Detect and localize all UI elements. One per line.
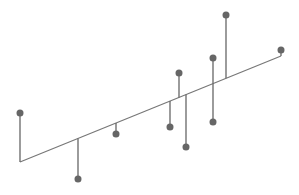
data-points xyxy=(17,12,285,183)
data-point xyxy=(223,12,230,19)
data-point xyxy=(183,144,190,151)
data-point xyxy=(176,70,183,77)
data-point xyxy=(210,55,217,62)
data-point xyxy=(278,47,285,54)
residual-stems xyxy=(20,15,281,179)
data-point xyxy=(17,110,24,117)
data-point xyxy=(75,176,82,183)
data-point xyxy=(113,131,120,138)
regression-line xyxy=(20,56,281,162)
residual-scatter-chart xyxy=(0,0,299,195)
data-point xyxy=(167,124,174,131)
data-point xyxy=(210,119,217,126)
